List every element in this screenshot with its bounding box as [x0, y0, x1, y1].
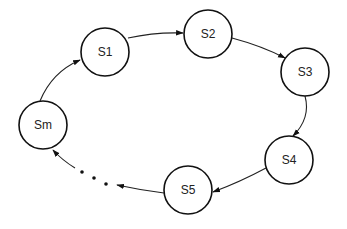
state-label: S3: [298, 65, 313, 79]
state-label: S2: [201, 27, 216, 41]
edge-s5-to-ellipsis: [117, 185, 164, 193]
edge-s1-to-s2: [128, 33, 183, 38]
state-s3: S3: [281, 48, 329, 96]
state-label: S5: [181, 183, 196, 197]
state-label: S1: [98, 45, 113, 59]
ellipsis-dots: [80, 170, 108, 186]
edge-s2-to-s3: [232, 38, 285, 58]
state-label: Sm: [34, 118, 52, 132]
edge-ellipsis-to-sm: [53, 150, 75, 168]
state-sm: Sm: [19, 101, 67, 149]
edge-sm-to-s1: [40, 60, 80, 101]
state-s1: S1: [81, 28, 129, 76]
state-s2: S2: [184, 10, 232, 58]
state-cycle-diagram: S1 S2 S3 S4 S5 Sm: [0, 0, 347, 229]
state-s5: S5: [164, 166, 212, 214]
state-s4: S4: [265, 136, 313, 184]
edge-s4-to-s5: [213, 168, 266, 192]
edge-s3-to-s4: [293, 96, 307, 136]
state-label: S4: [282, 153, 297, 167]
